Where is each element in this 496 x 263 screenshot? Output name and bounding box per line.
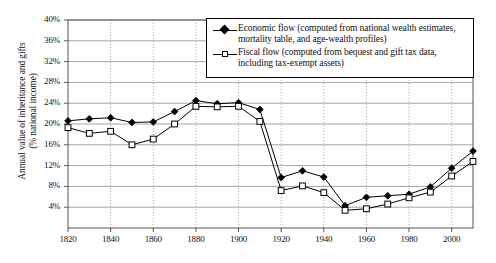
data-point-marker-square — [236, 103, 242, 109]
data-point-marker-square — [257, 119, 263, 125]
data-point-marker-square — [86, 130, 92, 136]
data-point-marker-square — [449, 173, 455, 179]
x-tick-label: 1820 — [48, 234, 88, 244]
legend-label-economic-flow: Economic flow (computed from national we… — [238, 23, 468, 45]
data-point-marker-diamond — [363, 194, 370, 201]
data-point-marker-square — [278, 188, 284, 194]
legend-item-economic-flow: Economic flow (computed from national we… — [212, 23, 468, 45]
y-tick-label: 36% — [26, 35, 60, 45]
data-point-marker-diamond — [299, 167, 306, 174]
data-point-marker-square — [129, 142, 135, 148]
x-tick-label: 1880 — [176, 234, 216, 244]
data-point-marker-square — [342, 207, 348, 213]
legend-marker-open-square-icon — [212, 48, 238, 60]
x-tick-label: 1840 — [91, 234, 131, 244]
data-point-marker-diamond — [65, 117, 72, 124]
x-tick-label: 1980 — [389, 234, 429, 244]
y-tick-label: 40% — [26, 14, 60, 24]
data-point-marker-diamond — [129, 119, 136, 126]
data-point-marker-square — [150, 136, 156, 142]
data-point-marker-diamond — [256, 106, 263, 113]
y-tick-label: 24% — [26, 97, 60, 107]
data-point-marker-square — [300, 183, 306, 189]
legend-label-fiscal-flow: Fiscal flow (computed from bequest and g… — [238, 47, 468, 69]
x-tick-label: 1940 — [304, 234, 344, 244]
data-point-marker-square — [406, 195, 412, 201]
y-tick-label: 8% — [26, 180, 60, 190]
x-tick-label: 1920 — [261, 234, 301, 244]
data-point-marker-diamond — [171, 108, 178, 115]
y-tick-label: 28% — [26, 76, 60, 86]
data-point-marker-diamond — [384, 192, 391, 199]
chart-legend: Economic flow (computed from national we… — [206, 18, 474, 78]
legend-item-fiscal-flow: Fiscal flow (computed from bequest and g… — [212, 47, 468, 69]
legend-marker-filled-diamond-icon — [212, 24, 238, 36]
x-tick-label: 1900 — [219, 234, 259, 244]
data-point-marker-square — [172, 121, 178, 127]
data-point-marker-square — [427, 189, 433, 195]
x-tick-label: 1960 — [346, 234, 386, 244]
data-point-marker-square — [321, 190, 327, 196]
data-point-marker-square — [385, 201, 391, 207]
y-tick-label: 16% — [26, 139, 60, 149]
x-tick-label: 2000 — [432, 234, 472, 244]
data-point-marker-diamond — [86, 115, 93, 122]
y-tick-label: 20% — [26, 118, 60, 128]
data-point-marker-square — [470, 159, 476, 165]
y-tick-label: 32% — [26, 56, 60, 66]
data-point-marker-diamond — [107, 114, 114, 121]
data-point-marker-square — [108, 128, 114, 134]
data-point-marker-square — [193, 103, 199, 109]
y-tick-label: 4% — [26, 201, 60, 211]
chart-figure: Annual value of inheritance and gifts (%… — [0, 0, 496, 263]
data-point-marker-square — [364, 206, 370, 212]
y-tick-label: 12% — [26, 160, 60, 170]
x-tick-label: 1860 — [133, 234, 173, 244]
data-point-marker-diamond — [278, 174, 285, 181]
data-point-marker-square — [65, 125, 71, 131]
data-point-marker-square — [214, 104, 220, 110]
series-line-economic-flow — [68, 101, 473, 206]
